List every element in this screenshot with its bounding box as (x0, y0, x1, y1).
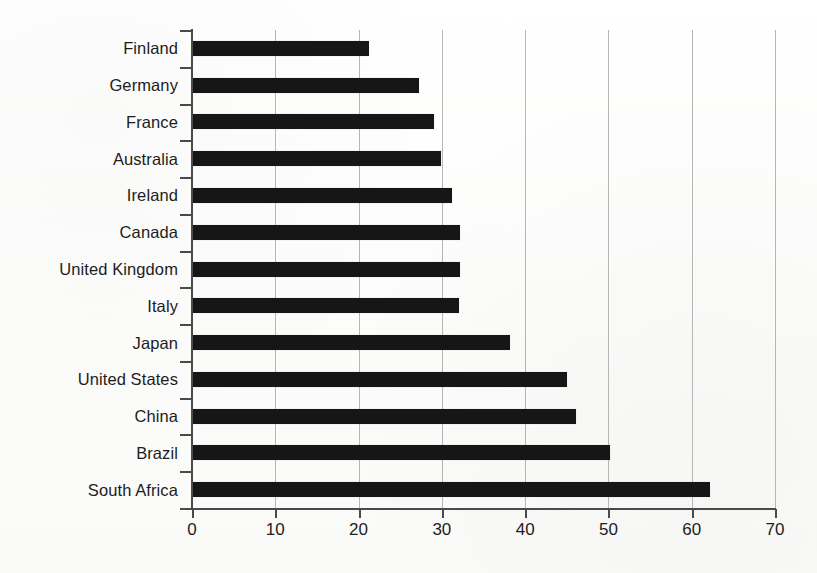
y-tick (180, 361, 191, 363)
x-tick-20 (359, 509, 361, 518)
y-axis-line (191, 29, 193, 510)
bar (192, 482, 710, 497)
category-label-south-africa: South Africa (0, 481, 178, 499)
y-tick (180, 177, 191, 179)
x-tick-10 (275, 509, 277, 518)
category-label-brazil: Brazil (0, 444, 178, 462)
x-tick-label-40: 40 (495, 520, 555, 540)
category-label-china: China (0, 407, 178, 425)
category-label-finland: Finland (0, 39, 178, 57)
x-tick-40 (525, 509, 527, 518)
y-axis-category-labels: FinlandGermanyFranceAustraliaIrelandCana… (0, 0, 178, 573)
y-tick (180, 324, 191, 326)
y-tick (180, 140, 191, 142)
y-tick (180, 214, 191, 216)
bar (192, 262, 460, 277)
x-tick-60 (692, 509, 694, 518)
y-tick (180, 434, 191, 436)
x-tick-label-50: 50 (578, 520, 638, 540)
bar (192, 78, 419, 93)
plot-area (192, 30, 775, 508)
x-tick-label-20: 20 (329, 520, 389, 540)
bar (192, 114, 434, 129)
bar (192, 41, 369, 56)
category-label-germany: Germany (0, 76, 178, 94)
category-label-italy: Italy (0, 297, 178, 315)
bar (192, 188, 452, 203)
x-tick-label-10: 10 (245, 520, 305, 540)
y-tick (180, 398, 191, 400)
category-label-canada: Canada (0, 223, 178, 241)
x-tick-label-0: 0 (162, 520, 222, 540)
y-tick (180, 287, 191, 289)
x-tick-label-60: 60 (662, 520, 722, 540)
bar (192, 445, 610, 460)
x-axis-line (191, 508, 776, 510)
category-label-united-states: United States (0, 370, 178, 388)
x-tick-label-30: 30 (412, 520, 472, 540)
x-tick-50 (608, 509, 610, 518)
x-tick-label-70: 70 (745, 520, 805, 540)
bar (192, 335, 510, 350)
category-label-ireland: Ireland (0, 186, 178, 204)
category-label-france: France (0, 113, 178, 131)
x-tick-30 (442, 509, 444, 518)
category-label-united-kingdom: United Kingdom (0, 260, 178, 278)
gridline-70 (775, 30, 776, 508)
bar (192, 151, 441, 166)
y-tick (180, 30, 191, 32)
y-tick (180, 104, 191, 106)
y-tick (180, 471, 191, 473)
bar (192, 225, 460, 240)
y-tick (180, 508, 191, 510)
bar (192, 409, 576, 424)
category-label-japan: Japan (0, 334, 178, 352)
y-tick (180, 251, 191, 253)
chart-page: FinlandGermanyFranceAustraliaIrelandCana… (0, 0, 817, 573)
x-tick-70 (775, 509, 777, 518)
y-tick (180, 67, 191, 69)
gridline-40 (525, 30, 526, 508)
x-tick-0 (192, 509, 194, 518)
bar (192, 372, 567, 387)
gridline-50 (608, 30, 609, 508)
bar (192, 298, 459, 313)
category-label-australia: Australia (0, 150, 178, 168)
gridline-60 (692, 30, 693, 508)
